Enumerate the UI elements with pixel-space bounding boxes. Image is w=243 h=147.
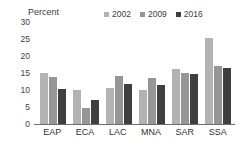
bar-MNA-2002 [139, 90, 147, 124]
y-axis-title: Percent [28, 7, 59, 17]
legend-swatch-icon-2009 [140, 12, 145, 17]
chart-legend: 200220092016 [104, 10, 203, 19]
x-tick-label-ECA: ECA [76, 127, 95, 137]
legend-entry-2016[interactable]: 2016 [176, 10, 203, 19]
x-tick-label-EAP: EAP [43, 127, 61, 137]
legend-label: 2002 [112, 10, 131, 19]
bar-EAP-2009 [49, 77, 57, 124]
x-axis-tick-labels: EAPECALACMNASARSSA [36, 127, 234, 137]
bar-SSA-2009 [214, 66, 222, 124]
y-tick-label: 15 [21, 69, 30, 78]
legend-entry-2009[interactable]: 2009 [140, 10, 167, 19]
x-axis-line [34, 124, 235, 125]
y-tick-label: 25 [21, 35, 30, 44]
bar-MNA-2009 [148, 78, 156, 124]
bar-SSA-2002 [205, 38, 213, 124]
bar-group-LAC [106, 22, 132, 124]
bar-LAC-2002 [106, 88, 114, 124]
y-tick-label: 10 [21, 86, 30, 95]
bar-SAR-2002 [172, 69, 180, 124]
x-tick-label-SSA: SSA [209, 127, 227, 137]
y-tick-label: 30 [21, 18, 30, 27]
bar-LAC-2009 [115, 76, 123, 124]
bar-group-ECA [73, 22, 99, 124]
bar-ECA-2016 [91, 100, 99, 124]
bar-SAR-2016 [190, 74, 198, 124]
bar-EAP-2002 [40, 73, 48, 124]
bar-group-SSA [205, 22, 231, 124]
bar-ECA-2002 [73, 90, 81, 124]
y-tick-label: 5 [25, 103, 30, 112]
bar-ECA-2009 [82, 108, 90, 124]
legend-label: 2009 [148, 10, 167, 19]
legend-entry-2002[interactable]: 2002 [104, 10, 131, 19]
bar-LAC-2016 [124, 84, 132, 124]
bar-chart: Percent 200220092016 302520151050 EAPECA… [0, 0, 243, 147]
bar-MNA-2016 [157, 85, 165, 124]
bar-group-MNA [139, 22, 165, 124]
x-tick-label-SAR: SAR [176, 127, 195, 137]
y-axis-tick-labels: 302520151050 [0, 22, 33, 124]
bar-EAP-2016 [58, 89, 66, 124]
y-tick-label: 0 [25, 120, 30, 129]
legend-swatch-icon-2016 [176, 12, 181, 17]
bar-SSA-2016 [223, 68, 231, 124]
x-tick-label-LAC: LAC [109, 127, 127, 137]
y-tick-label: 20 [21, 52, 30, 61]
legend-label: 2016 [184, 10, 203, 19]
bar-group-EAP [40, 22, 66, 124]
bar-SAR-2009 [181, 73, 189, 124]
legend-swatch-icon-2002 [104, 12, 109, 17]
x-tick-label-MNA: MNA [141, 127, 161, 137]
bar-group-SAR [172, 22, 198, 124]
bar-groups [36, 22, 234, 124]
